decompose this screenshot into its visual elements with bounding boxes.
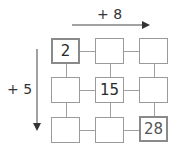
- connector: [80, 51, 96, 52]
- grid-cell-r3c2[interactable]: [95, 117, 124, 143]
- down-arrow-icon: [32, 47, 42, 133]
- grid-cell-r3c1[interactable]: [51, 117, 80, 143]
- grid-cell-r2c1[interactable]: [51, 77, 80, 103]
- connector: [110, 103, 111, 117]
- connector: [154, 103, 155, 117]
- connector: [124, 51, 140, 52]
- grid-cell-r2c2[interactable]: 15: [95, 77, 124, 103]
- grid-cell-r1c2[interactable]: [95, 38, 124, 64]
- grid-cell-r1c1[interactable]: 2: [51, 38, 80, 64]
- grid-cell-r2c3[interactable]: [139, 77, 168, 103]
- left-operator-label: + 5: [7, 81, 32, 97]
- connector: [110, 64, 111, 78]
- connector: [80, 90, 96, 91]
- connector: [66, 103, 67, 117]
- connector: [66, 64, 67, 78]
- connector: [154, 64, 155, 78]
- connector: [80, 130, 96, 131]
- grid-cell-r3c3[interactable]: 28: [139, 116, 168, 142]
- grid-cell-r1c3[interactable]: [139, 38, 168, 64]
- right-arrow-icon: [70, 20, 152, 30]
- connector: [124, 130, 140, 131]
- connector: [124, 90, 140, 91]
